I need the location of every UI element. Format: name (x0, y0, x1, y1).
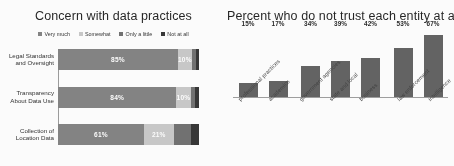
legend-label-somewhat: Somewhat (85, 31, 110, 37)
legend-swatch-only-a-little (119, 32, 123, 36)
stacked-seg-value-somewhat-0: 10% (178, 56, 192, 63)
legend-label-not-at-all: Not at all (167, 31, 188, 37)
stacked-seg-somewhat-2: 21% (144, 124, 174, 145)
right-chart-panel: Percent who do not trust each entity at … (227, 0, 454, 166)
stacked-bar-category-label-0: Legal Standards and Oversight (2, 52, 58, 67)
table-row: Transparency About Data Use 84% 10% (58, 87, 199, 108)
legend-label-very-much: Very much (44, 31, 69, 37)
legend-item-only-a-little: Only a little (119, 31, 152, 37)
table-row: Legal Standards and Oversight 85% 10% (58, 49, 199, 70)
legend-item-very-much: Very much (38, 31, 70, 37)
stacked-seg-not-at-all-1 (195, 87, 199, 108)
column-value-0: 15% (242, 20, 255, 27)
column-value-3: 39% (334, 20, 347, 27)
column-value-6: 67% (427, 20, 440, 27)
legend-swatch-very-much (38, 32, 42, 36)
stacked-seg-somewhat-1: 10% (176, 87, 190, 108)
stacked-seg-only-a-little-2 (174, 124, 191, 145)
column-value-5: 53% (397, 20, 410, 27)
stacked-seg-value-very-much-1: 84% (110, 94, 124, 101)
legend-label-only-a-little: Only a little (126, 31, 153, 37)
two-chart-slide: Concern with data practices Very much So… (0, 0, 454, 166)
legend-item-somewhat: Somewhat (79, 31, 111, 37)
column-value-1: 17% (272, 20, 285, 27)
stacked-bar-category-label-1: Transparency About Data Use (2, 89, 58, 104)
legend-swatch-somewhat (79, 32, 83, 36)
column-value-4: 42% (364, 20, 377, 27)
stacked-seg-not-at-all-0 (196, 49, 199, 70)
stacked-seg-value-very-much-0: 85% (111, 56, 125, 63)
column-tick-labels: professional practices academics governm… (233, 98, 448, 160)
stacked-seg-not-at-all-2 (191, 124, 199, 145)
stacked-seg-very-much-2: 61% (58, 124, 144, 145)
stacked-seg-value-somewhat-1: 10% (177, 94, 191, 101)
column-value-2: 34% (304, 20, 317, 27)
stacked-seg-very-much-0: 85% (58, 49, 178, 70)
left-chart-legend: Very much Somewhat Only a little Not at … (11, 31, 216, 37)
stacked-bar-rows: Legal Standards and Oversight 85% 10% Tr… (58, 49, 199, 145)
stacked-seg-value-very-much-2: 61% (94, 131, 108, 138)
left-chart-title: Concern with data practices (0, 9, 227, 23)
legend-swatch-not-at-all (161, 32, 165, 36)
stacked-seg-very-much-1: 84% (58, 87, 176, 108)
stacked-seg-value-somewhat-2: 21% (152, 131, 166, 138)
table-row: Collection of Location Data 61% 21% (58, 124, 199, 145)
stacked-bar-plot-area: Legal Standards and Oversight 85% 10% Tr… (0, 46, 227, 148)
legend-item-not-at-all: Not at all (161, 31, 188, 37)
left-chart-panel: Concern with data practices Very much So… (0, 0, 227, 166)
stacked-seg-somewhat-0: 10% (178, 49, 192, 70)
stacked-bar-category-label-2: Collection of Location Data (2, 127, 58, 142)
